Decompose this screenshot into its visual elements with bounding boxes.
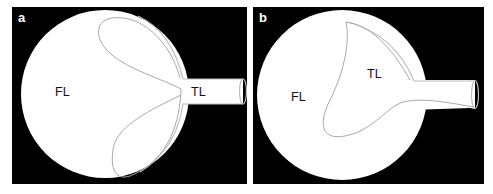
panel-b: b FL TL (253, 7, 484, 184)
panel-a-true-lumen-tube (176, 79, 243, 104)
panel-a: a FL TL (12, 7, 247, 184)
panel-a-letter: a (18, 10, 26, 25)
panel-b-letter: b (259, 10, 267, 25)
panel-a-false-lumen-circle (21, 10, 189, 178)
panel-a-true-lumen-label: TL (191, 85, 206, 99)
aortic-dissection-figure: a FL TL b FL TL (0, 0, 493, 194)
panel-b-false-lumen-circle (257, 10, 427, 180)
panel-b-false-lumen-label: FL (291, 90, 306, 104)
panel-a-false-lumen-label: FL (55, 85, 70, 99)
panel-b-true-lumen-label: TL (367, 67, 382, 81)
